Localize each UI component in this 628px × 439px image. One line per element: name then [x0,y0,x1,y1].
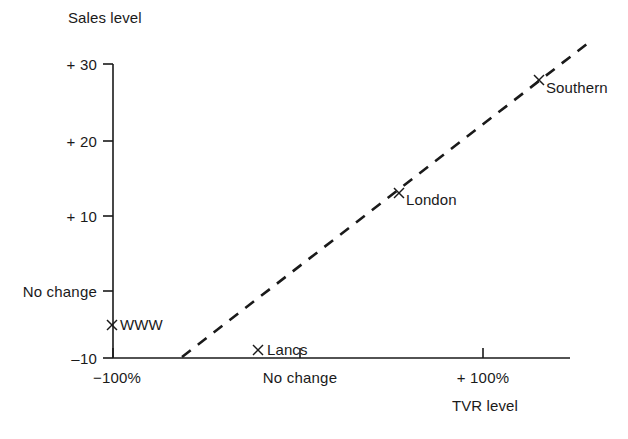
data-point-label-www: WWW [120,317,163,332]
y-tick-label-no-change: No change [0,284,97,299]
y-axis-title: Sales level [68,10,142,25]
x-tick-label-no-change: No change [263,370,337,385]
data-point-label-london: London [406,192,457,207]
data-point-label-southern: Southern [546,80,608,95]
data-point-marker-lancs [253,345,263,355]
x-tick-label-minus-100: −100% [93,370,141,385]
y-tick-label-20: + 20 [0,134,97,149]
trend-line-dashed [182,40,592,357]
y-tick-label-10: + 10 [0,209,97,224]
x-tick-label-plus-100: + 100% [457,370,510,385]
data-point-marker-southern [534,75,544,85]
chart-figure: Sales level TVR level + 30 + 20 + 10 No … [0,0,628,439]
x-axis-title: TVR level [452,398,518,413]
y-tick-label-minus-10: –10 [0,351,97,366]
y-tick-label-30: + 30 [0,57,97,72]
data-point-marker-www [107,320,117,330]
data-point-label-lancs: Lancs [267,342,308,357]
